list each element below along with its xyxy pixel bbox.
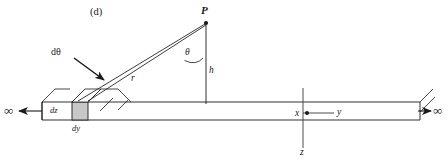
- coordinate-axes: [303, 88, 334, 148]
- radius-rays: [78, 24, 206, 101]
- theta-label: θ: [185, 48, 190, 58]
- physics-figure: (d) P h θ dθ r dz dy x y z ∞ ∞: [0, 0, 448, 167]
- point-p-label: P: [201, 5, 208, 16]
- axis-y-label: y: [337, 108, 341, 118]
- dtheta-arrow: [74, 58, 104, 80]
- panel-caption: (d): [90, 7, 102, 18]
- point-p-marker: [204, 21, 208, 25]
- element-dz-label: dz: [50, 106, 58, 115]
- axis-z-label: z: [300, 148, 304, 158]
- infinity-left-label: ∞: [4, 104, 13, 117]
- figure-drawing: [0, 0, 448, 167]
- differential-element: [72, 89, 101, 120]
- theta-arc: [185, 58, 204, 63]
- infinity-right-label: ∞: [433, 104, 442, 117]
- dtheta-label: dθ: [51, 47, 61, 57]
- rod-body: [42, 102, 420, 120]
- radius-r-label: r: [131, 74, 135, 84]
- height-h-label: h: [209, 66, 214, 76]
- element-dy-label: dy: [72, 124, 80, 133]
- axis-x-label: x: [295, 109, 299, 119]
